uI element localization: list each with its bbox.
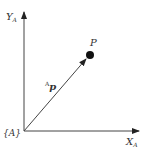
position-vector — [24, 59, 86, 131]
vector-label: Ap — [44, 80, 56, 92]
frame-diagram: YA XA P Ap {A} — [0, 0, 146, 153]
point-p — [86, 51, 94, 59]
frame-label: {A} — [3, 128, 21, 138]
x-axis-label: XA — [125, 136, 138, 148]
y-axis-label: YA — [6, 11, 18, 23]
point-label: P — [89, 37, 97, 48]
